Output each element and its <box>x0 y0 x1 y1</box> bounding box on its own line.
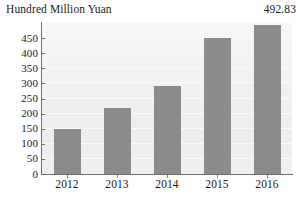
y-axis-tick-mark <box>42 174 45 175</box>
x-axis-tick-label: 2015 <box>192 178 242 191</box>
y-axis-tick-label: 200 <box>21 108 38 119</box>
x-axis-tick-label: 2016 <box>242 178 292 191</box>
y-axis-tick-mark <box>42 99 45 100</box>
x-axis-tick-label: 2014 <box>142 178 192 191</box>
x-axis-tick-mark <box>117 175 118 178</box>
y-axis-tick-label: 450 <box>21 33 38 44</box>
y-axis-tick-label: 50 <box>27 153 38 164</box>
x-axis-tick-label: 2012 <box>42 178 92 191</box>
x-axis-tick-label: 2013 <box>92 178 142 191</box>
y-axis-tick-mark <box>42 129 45 130</box>
y-axis-tick-mark <box>42 68 45 69</box>
y-axis-tick-mark <box>42 83 45 84</box>
bar <box>54 129 81 174</box>
y-axis-tick-mark <box>42 144 45 145</box>
bar-chart-figure: Hundred Million Yuan 492.83 050100150200… <box>0 0 304 202</box>
y-axis-tick-label: 150 <box>21 123 38 134</box>
x-axis-tick-mark <box>217 175 218 178</box>
bar <box>104 108 131 174</box>
y-axis-tick-mark <box>42 38 45 39</box>
x-axis-tick-mark <box>267 175 268 178</box>
y-axis-tick-label: 400 <box>21 48 38 59</box>
y-axis-tick-label: 0 <box>32 169 38 180</box>
y-axis-tick-mark <box>42 53 45 54</box>
y-axis-tick-label: 300 <box>21 78 38 89</box>
plot-area <box>42 23 292 174</box>
bar <box>254 25 281 174</box>
y-axis-tick-label: 350 <box>21 63 38 74</box>
y-axis-tick-mark <box>42 159 45 160</box>
y-axis-unit-title: Hundred Million Yuan <box>6 3 112 16</box>
bar <box>204 38 231 174</box>
y-axis-tick-label: 250 <box>21 93 38 104</box>
y-axis-tick-mark <box>42 114 45 115</box>
bar <box>154 86 181 174</box>
x-axis-tick-mark <box>67 175 68 178</box>
y-axis-tick-label: 100 <box>21 138 38 149</box>
peak-value-annotation: 492.83 <box>264 3 296 16</box>
x-axis-tick-mark <box>167 175 168 178</box>
